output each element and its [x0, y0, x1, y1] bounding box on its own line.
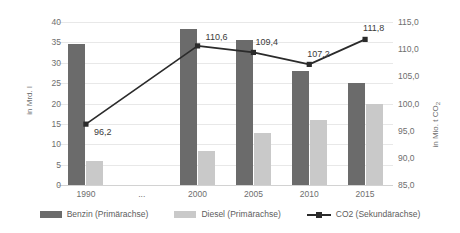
legend-label: Benzin (Primärachse)	[67, 210, 149, 219]
secondary-axis-tick-label: 90,0	[398, 154, 442, 163]
co2-marker	[83, 122, 88, 127]
combo-chart: in Mrd. l in Mio. t CO2 96,2110,6109,410…	[0, 0, 460, 233]
legend-label: Diesel (Primärachse)	[201, 210, 280, 219]
gridline	[58, 185, 393, 186]
primary-axis-tick-label: 20	[21, 100, 61, 109]
category-tick-label: 2005	[226, 190, 282, 199]
diesel-swatch	[174, 211, 196, 218]
co2-line-swatch	[307, 210, 331, 219]
co2-marker	[195, 43, 200, 48]
chart-legend: Benzin (Primärachse)Diesel (Primärachse)…	[0, 210, 460, 219]
primary-axis-tick-label: 10	[21, 140, 61, 149]
co2-data-label: 109,4	[255, 38, 278, 47]
co2-data-label: 96,2	[94, 128, 112, 137]
primary-axis-tick-label: 35	[21, 38, 61, 47]
primary-axis-tick-label: 0	[21, 181, 61, 190]
secondary-axis-tick-label: 95,0	[398, 127, 442, 136]
co2-marker	[251, 50, 256, 55]
secondary-axis-tick-label: 110,0	[398, 45, 442, 54]
primary-axis-tick-label: 25	[21, 79, 61, 88]
legend-item[interactable]: Benzin (Primärachse)	[40, 210, 149, 219]
category-tick-label: 2010	[281, 190, 337, 199]
secondary-axis-tick-label: 115,0	[398, 18, 442, 27]
secondary-axis-tick-label: 100,0	[398, 100, 442, 109]
primary-axis-tick-label: 15	[21, 120, 61, 129]
secondary-axis-tick-label: 105,0	[398, 72, 442, 81]
secondary-axis-title: in Mio. t CO2	[431, 87, 440, 163]
plot-area: 96,2110,6109,4107,2111,8	[58, 22, 393, 185]
category-tick-label: 2000	[170, 190, 226, 199]
category-tick-label: ...	[114, 190, 170, 199]
co2-data-label: 107,2	[307, 50, 330, 59]
legend-item[interactable]: CO2 (Sekundärachse)	[307, 210, 421, 219]
co2-line-series	[58, 22, 393, 185]
benzin-swatch	[40, 211, 62, 218]
co2-data-label: 111,8	[363, 24, 384, 33]
secondary-axis-tick-label: 85,0	[398, 181, 442, 190]
category-tick-label: 1990	[58, 190, 114, 199]
co2-marker	[307, 62, 312, 67]
co2-marker	[362, 37, 367, 42]
co2-data-label: 110,6	[206, 33, 228, 42]
legend-label: CO2 (Sekundärachse)	[336, 210, 421, 219]
category-tick-label: 2015	[337, 190, 393, 199]
primary-axis-tick-label: 30	[21, 59, 61, 68]
primary-axis-tick-label: 5	[21, 161, 61, 170]
primary-axis-tick-label: 40	[21, 18, 61, 27]
legend-item[interactable]: Diesel (Primärachse)	[174, 210, 280, 219]
